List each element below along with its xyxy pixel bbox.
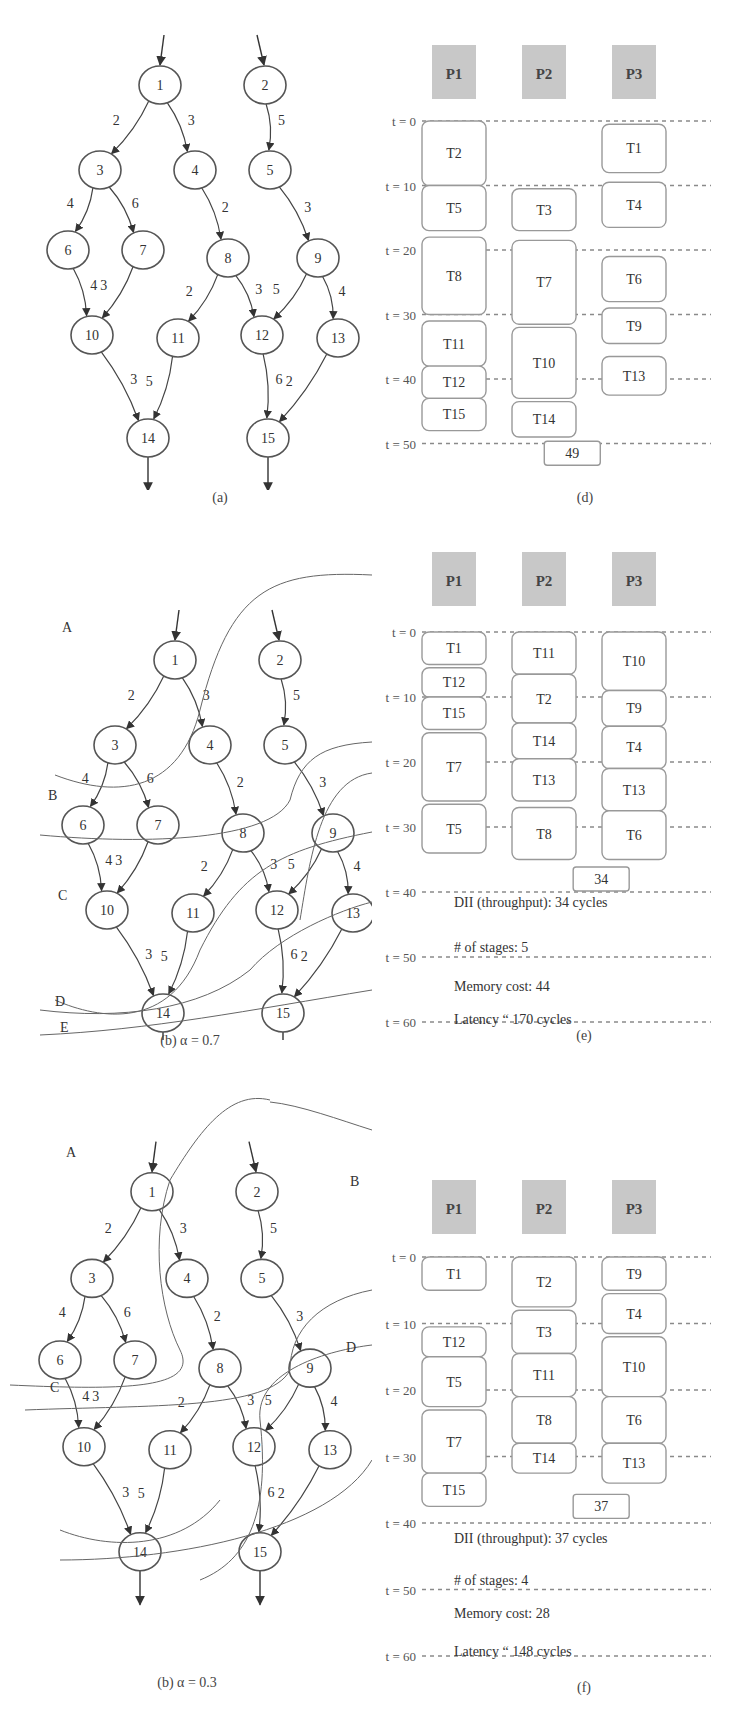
edge-weight: 2 bbox=[214, 1309, 221, 1324]
task-block-t6: T6 bbox=[602, 811, 666, 860]
schedule-chart-f: P1P2P3t = 0t = 10t = 20t = 30t = 40t = 5… bbox=[372, 1100, 744, 1680]
edge-weight: 4 bbox=[82, 1389, 89, 1404]
input-arrow bbox=[160, 35, 164, 65]
task-block-t2: T2 bbox=[512, 1257, 576, 1307]
time-tick-label: t = 30 bbox=[386, 308, 416, 323]
svg-text:P1: P1 bbox=[446, 1201, 463, 1217]
processor-header-p1: P1 bbox=[432, 45, 476, 99]
region-label-b: B bbox=[48, 788, 57, 803]
task-block-t9: T9 bbox=[602, 691, 666, 727]
edge-4-8 bbox=[202, 188, 221, 239]
panel-f: P1P2P3t = 0t = 10t = 20t = 30t = 40t = 5… bbox=[372, 1100, 744, 1714]
task-block-t10: T10 bbox=[602, 632, 666, 691]
task-node-14: 14 bbox=[119, 1533, 161, 1571]
edge-12-15 bbox=[278, 929, 283, 993]
svg-text:T6: T6 bbox=[626, 828, 642, 843]
edge-weight: 4 bbox=[59, 1305, 66, 1320]
task-block-t3: T3 bbox=[512, 1310, 576, 1353]
task-node-3: 3 bbox=[79, 151, 121, 189]
task-node-15: 15 bbox=[247, 419, 289, 457]
partition-boundary bbox=[270, 1102, 372, 1130]
region-label-a: A bbox=[66, 1145, 77, 1160]
svg-text:T5: T5 bbox=[446, 1375, 462, 1390]
time-tick-label: t = 0 bbox=[392, 1250, 416, 1265]
svg-text:T5: T5 bbox=[446, 822, 462, 837]
task-block-t1: T1 bbox=[422, 632, 486, 665]
partitioned-graph-alpha-03: 23546234323543562123456789101112131415AB… bbox=[0, 1090, 372, 1610]
edge-3-7 bbox=[109, 187, 134, 233]
svg-text:P3: P3 bbox=[626, 66, 643, 82]
task-block-t13: T13 bbox=[602, 769, 666, 811]
svg-text:T15: T15 bbox=[443, 407, 466, 422]
svg-text:3: 3 bbox=[89, 1271, 96, 1286]
edge-weight: 2 bbox=[105, 1221, 112, 1236]
edge-11-14 bbox=[169, 931, 188, 994]
task-block-t7: T7 bbox=[422, 1410, 486, 1473]
processor-header-p3: P3 bbox=[612, 552, 656, 606]
edge-3-6 bbox=[75, 188, 93, 232]
task-node-11: 11 bbox=[172, 894, 214, 932]
edge-weight: 3 bbox=[100, 278, 107, 293]
svg-text:T8: T8 bbox=[536, 827, 552, 842]
task-block-t5: T5 bbox=[422, 804, 486, 853]
edge-4-8 bbox=[194, 1296, 214, 1349]
task-block-t15: T15 bbox=[422, 398, 486, 430]
svg-text:12: 12 bbox=[247, 1440, 261, 1455]
edge-weight: 3 bbox=[255, 282, 262, 297]
svg-text:P3: P3 bbox=[626, 573, 643, 589]
svg-text:4: 4 bbox=[192, 163, 199, 178]
task-block-t6: T6 bbox=[602, 1397, 666, 1444]
input-arrow bbox=[272, 610, 279, 640]
svg-text:12: 12 bbox=[270, 903, 284, 918]
schedule-stat: DII (throughput): 34 cycles bbox=[454, 895, 608, 911]
edge-3-6 bbox=[90, 763, 108, 807]
task-node-1: 1 bbox=[154, 641, 196, 679]
partitioned-graph-alpha-07: 23546234323543562123456789101112131415AB… bbox=[0, 530, 372, 1040]
edge-weight: 5 bbox=[293, 688, 300, 703]
task-block-t9: T9 bbox=[602, 1257, 666, 1290]
edge-weight: 5 bbox=[138, 1486, 145, 1501]
processor-header-p2: P2 bbox=[522, 552, 566, 606]
region-label-c: C bbox=[50, 1380, 59, 1395]
edge-weight: 4 bbox=[353, 859, 360, 874]
region-label-d: D bbox=[55, 994, 65, 1009]
edge-6-10 bbox=[73, 268, 86, 315]
processor-header-p3: P3 bbox=[612, 1180, 656, 1234]
task-block-t7: T7 bbox=[422, 733, 486, 801]
svg-text:T11: T11 bbox=[533, 646, 555, 661]
task-block-t8: T8 bbox=[422, 237, 486, 314]
edge-weight: 4 bbox=[338, 284, 345, 299]
svg-text:8: 8 bbox=[217, 1361, 224, 1376]
task-block-t2: T2 bbox=[512, 674, 576, 723]
time-tick-label: t = 50 bbox=[386, 950, 416, 965]
svg-text:8: 8 bbox=[225, 251, 232, 266]
svg-text:5: 5 bbox=[267, 163, 274, 178]
task-node-8: 8 bbox=[207, 239, 249, 277]
caption-a: (a) bbox=[140, 490, 300, 506]
edge-weight: 5 bbox=[288, 857, 295, 872]
edge-2-5 bbox=[281, 679, 286, 725]
panel-b-alpha-03: 23546234323543562123456789101112131415AB… bbox=[0, 1090, 372, 1714]
edge-weight: 2 bbox=[301, 949, 308, 964]
schedule-chart-e: P1P2P3t = 0t = 10t = 20t = 30t = 40t = 5… bbox=[372, 540, 744, 1030]
edge-weight: 2 bbox=[113, 113, 120, 128]
task-graph-a: 23546234323543562123456789101112131415 bbox=[0, 0, 372, 490]
task-node-8: 8 bbox=[222, 814, 264, 852]
edge-weight: 5 bbox=[265, 1393, 272, 1408]
time-tick-label: t = 40 bbox=[386, 1516, 416, 1531]
edge-2-5 bbox=[266, 104, 271, 150]
task-node-4: 4 bbox=[189, 726, 231, 764]
edge-6-10 bbox=[88, 843, 101, 890]
task-block-t8: T8 bbox=[512, 1397, 576, 1444]
panel-b-alpha-07: 23546234323543562123456789101112131415AB… bbox=[0, 530, 372, 1060]
svg-text:4: 4 bbox=[207, 738, 214, 753]
time-tick-label: t = 10 bbox=[386, 690, 416, 705]
task-node-7: 7 bbox=[114, 1341, 156, 1379]
edge-3-6 bbox=[67, 1296, 85, 1341]
svg-text:T1: T1 bbox=[626, 141, 642, 156]
edge-weight: 4 bbox=[330, 1394, 337, 1409]
partition-boundary bbox=[40, 990, 372, 1035]
svg-text:T2: T2 bbox=[446, 146, 462, 161]
schedule-stat: # of stages: 5 bbox=[454, 940, 528, 955]
task-block-t15: T15 bbox=[422, 697, 486, 730]
